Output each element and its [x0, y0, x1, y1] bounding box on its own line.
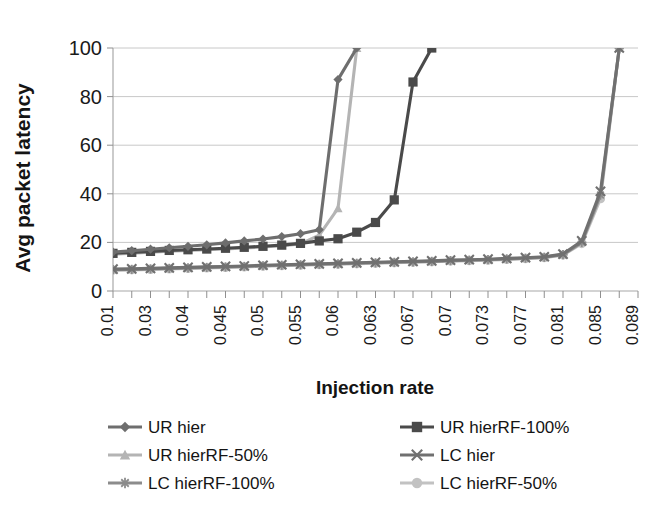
data-point-marker-square — [333, 234, 342, 243]
x-tick-label: 0.089 — [624, 305, 641, 345]
data-point-marker-square — [277, 240, 286, 249]
data-point-marker-square — [296, 239, 305, 248]
legend-label: UR hierRF-50% — [148, 446, 268, 465]
data-point-marker-square — [412, 422, 422, 432]
legend-label: LC hier — [440, 446, 495, 465]
data-point-marker-square — [352, 228, 361, 237]
x-tick-label: 0.07 — [437, 305, 454, 336]
x-tick-label: 0.085 — [587, 305, 604, 345]
legend-item-lc-hierrf-100[interactable]: LC hierRF-100% — [108, 474, 275, 493]
data-point-marker-diamond — [296, 229, 305, 238]
x-tick-label: 0.081 — [549, 305, 566, 345]
x-tick-label: 0.06 — [324, 305, 341, 336]
data-point-marker-square — [315, 236, 324, 245]
x-axis-ticks — [113, 291, 638, 298]
data-point-marker-square — [390, 195, 399, 204]
y-tick-label: 100 — [69, 37, 102, 59]
x-tick-label: 0.04 — [174, 305, 191, 336]
y-axis-tick-labels: 020406080100 — [69, 37, 102, 302]
x-tick-label: 0.077 — [512, 305, 529, 345]
x-axis-title: Injection rate — [316, 377, 434, 398]
y-tick-label: 20 — [80, 231, 102, 253]
legend-label: UR hier — [148, 418, 206, 437]
x-tick-label: 0.073 — [474, 305, 491, 345]
avg-packet-latency-line-chart: 020406080100 0.010.030.040.0450.050.0550… — [0, 0, 671, 514]
legend-item-lc-hier[interactable]: LC hier — [400, 446, 495, 465]
legend-label: UR hierRF-100% — [440, 418, 569, 437]
x-tick-label: 0.05 — [249, 305, 266, 336]
data-series-group — [108, 43, 623, 274]
series-lc-hierrf-100 — [108, 43, 623, 274]
chart-figure: 020406080100 0.010.030.040.0450.050.0550… — [0, 0, 671, 514]
data-point-marker-square — [408, 77, 417, 86]
series-ur-hierrf-50 — [108, 43, 361, 258]
series-ur-hierrf-100 — [108, 43, 436, 258]
chart-legend: UR hierUR hierRF-100%UR hierRF-50%LC hie… — [108, 418, 569, 493]
y-tick-label: 0 — [91, 280, 102, 302]
x-tick-label: 0.03 — [137, 305, 154, 336]
data-point-marker-diamond — [277, 232, 286, 241]
legend-item-ur-hier[interactable]: UR hier — [108, 418, 206, 437]
data-point-marker-square — [371, 218, 380, 227]
series-lc-hierrf-50 — [108, 43, 623, 274]
x-tick-label: 0.063 — [362, 305, 379, 345]
series-lc-hier — [108, 43, 623, 273]
y-tick-label: 40 — [80, 183, 102, 205]
series-ur-hier — [108, 43, 361, 256]
x-tick-label: 0.01 — [99, 305, 116, 336]
y-axis-ticks — [107, 48, 113, 291]
x-tick-label: 0.067 — [399, 305, 416, 345]
plot-gridlines — [113, 48, 638, 242]
x-tick-label: 0.055 — [287, 305, 304, 345]
legend-item-ur-hierrf-50[interactable]: UR hierRF-50% — [108, 446, 268, 465]
legend-label: LC hierRF-100% — [148, 474, 275, 493]
y-axis-title: Avg packet latency — [11, 83, 34, 273]
x-tick-label: 0.045 — [212, 305, 229, 345]
legend-label: LC hierRF-50% — [440, 474, 557, 493]
x-axis-tick-labels: 0.010.030.040.0450.050.0550.060.0630.067… — [99, 305, 641, 345]
data-point-marker-circle — [412, 478, 422, 488]
data-point-marker-square — [427, 43, 436, 52]
legend-item-lc-hierrf-50[interactable]: LC hierRF-50% — [400, 474, 557, 493]
y-tick-label: 60 — [80, 134, 102, 156]
data-point-marker-diamond — [120, 422, 130, 432]
y-tick-label: 80 — [80, 86, 102, 108]
data-point-marker-triangle — [333, 204, 342, 213]
legend-item-ur-hierrf-100[interactable]: UR hierRF-100% — [400, 418, 569, 437]
data-point-marker-asterisk — [120, 478, 130, 488]
